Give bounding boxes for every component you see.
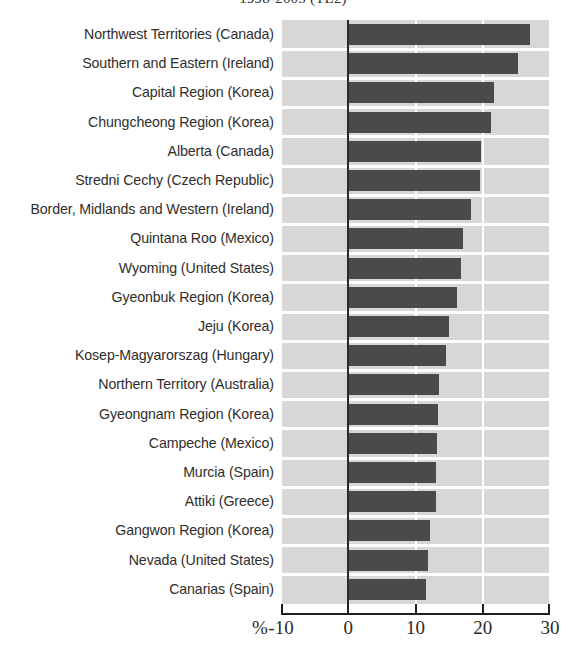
bar-row [281,78,550,107]
bar-row [281,400,550,429]
axis-cap-right [548,604,550,615]
row-separator [281,223,550,226]
bar [348,82,494,103]
bar [348,520,430,541]
category-label: Quintana Roo (Mexico) [130,224,274,253]
category-label: Canarias (Spain) [169,575,274,604]
bar-row [281,458,550,487]
bar [348,433,437,454]
row-separator [281,281,550,284]
bar-chart: Northwest Territories (Canada)Southern a… [0,20,586,657]
bar-row [281,370,550,399]
percent-unit-label: % [252,617,268,639]
bar-row [281,312,550,341]
row-separator [281,252,550,255]
bar [348,24,530,45]
row-separator [281,48,550,51]
bar [348,258,461,279]
row-separator [281,77,550,80]
category-label: Attiki (Greece) [185,487,274,516]
axis-tick [482,604,484,615]
bar-row [281,546,550,575]
bar [348,462,436,483]
bar-row [281,49,550,78]
bar-row [281,254,550,283]
row-separator [281,369,550,372]
bar-row [281,224,550,253]
bar-row [281,341,550,370]
bar [348,404,437,425]
category-label: Northern Territory (Australia) [98,370,274,399]
axis-tick [415,604,417,615]
bar [348,579,426,600]
row-separator [281,427,550,430]
row-separator [281,340,550,343]
category-label: Southern and Eastern (Ireland) [82,49,274,78]
zero-baseline [347,20,349,604]
bar-row [281,575,550,604]
bar [348,228,462,249]
bar [348,141,480,162]
axis-tick-label: 30 [541,617,560,639]
bar-row [281,137,550,166]
axis-tick [347,604,349,615]
bar [348,287,457,308]
chart-title: 1998-2005 (TL2) [0,0,586,8]
axis-cap-left [281,604,283,615]
category-label: Border, Midlands and Western (Ireland) [30,195,274,224]
axis-tick-label: 10 [406,617,425,639]
bar-row [281,516,550,545]
row-separator [281,194,550,197]
axis-tick-label: -10 [268,617,293,639]
category-label: Northwest Territories (Canada) [84,20,274,49]
value-axis: -100102030 [281,604,550,657]
category-label: Stredni Cechy (Czech Republic) [75,166,274,195]
plot-area [281,20,550,604]
bar-row [281,108,550,137]
bar-row [281,195,550,224]
bar [348,112,491,133]
bar [348,374,439,395]
category-label: Jeju (Korea) [198,312,274,341]
bar-row [281,429,550,458]
bar [348,550,427,571]
chart-page: 1998-2005 (TL2) Northwest Territories (C… [0,0,586,657]
bar [348,345,446,366]
bar [348,316,449,337]
category-label: Kosep-Magyarorszag (Hungary) [75,341,274,370]
row-separator [281,544,550,547]
row-separator [281,398,550,401]
row-separator [281,106,550,109]
category-label: Campeche (Mexico) [149,429,274,458]
category-label: Gyeonbuk Region (Korea) [111,283,274,312]
axis-tick-label: 20 [473,617,492,639]
category-label: Wyoming (United States) [119,254,274,283]
bar-row [281,166,550,195]
row-separator [281,515,550,518]
category-axis: Northwest Territories (Canada)Southern a… [0,20,278,604]
category-label: Alberta (Canada) [168,137,274,166]
bar-row [281,283,550,312]
row-separator [281,311,550,314]
category-label: Gangwon Region (Korea) [115,516,274,545]
bar [348,53,517,74]
category-label: Chungcheong Region (Korea) [88,108,274,137]
category-label: Capital Region (Korea) [132,78,274,107]
bar-row [281,487,550,516]
bar [348,199,471,220]
bar-row [281,20,550,49]
row-separator [281,573,550,576]
row-separator [281,135,550,138]
category-label: Murcia (Spain) [183,458,274,487]
axis-tick-label: 0 [344,617,354,639]
category-label: Gyeongnam Region (Korea) [99,400,274,429]
category-label: Nevada (United States) [129,546,274,575]
bar [348,170,480,191]
row-separator [281,486,550,489]
row-separator [281,165,550,168]
bar [348,491,435,512]
row-separator [281,457,550,460]
